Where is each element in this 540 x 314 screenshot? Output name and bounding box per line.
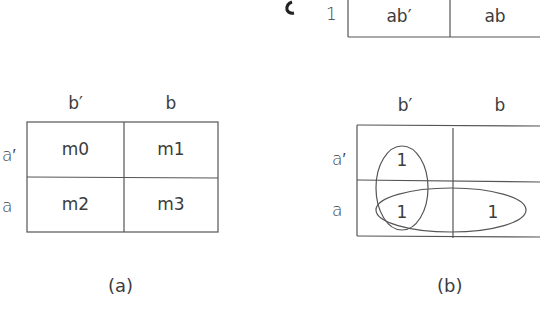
kmap-b-cell-r1c1: 1 bbox=[448, 200, 538, 224]
brace-fragment bbox=[287, 2, 294, 13]
kmap-a-col-header-b-prime: b′ bbox=[27, 92, 124, 114]
kmap-a-caption: (a) bbox=[108, 277, 133, 295]
kmap-b-row-header-a-prime: a′ bbox=[332, 151, 346, 168]
kmap-a-cell-m1: m1 bbox=[124, 122, 218, 177]
kmap-b-col-header-b-prime: b′ bbox=[357, 94, 453, 116]
kmap-a-cell-m2: m2 bbox=[27, 177, 124, 232]
kmap-a-row-header-a: a bbox=[2, 198, 12, 215]
kmap-a-cell-m0: m0 bbox=[27, 122, 124, 177]
top-cell-ab: ab bbox=[450, 0, 540, 32]
kmap-b-col-header-b: b bbox=[453, 94, 540, 116]
top-row-label: 1 bbox=[326, 6, 337, 23]
top-cell-ab-prime: ab′ bbox=[348, 0, 450, 32]
kmap-b-cell-r1c0: 1 bbox=[357, 200, 447, 224]
kmap-b-row-header-a: a bbox=[332, 202, 342, 219]
kmap-a-col-header-b: b bbox=[124, 92, 218, 114]
kmap-a-row-header-a-prime: a′ bbox=[2, 147, 16, 164]
kmap-b-cell-r0c1 bbox=[453, 148, 540, 172]
kmap-b-cell-r0c0: 1 bbox=[357, 148, 447, 172]
kmap-b-caption: (b) bbox=[437, 277, 462, 295]
kmap-a-cell-m3: m3 bbox=[124, 177, 218, 232]
